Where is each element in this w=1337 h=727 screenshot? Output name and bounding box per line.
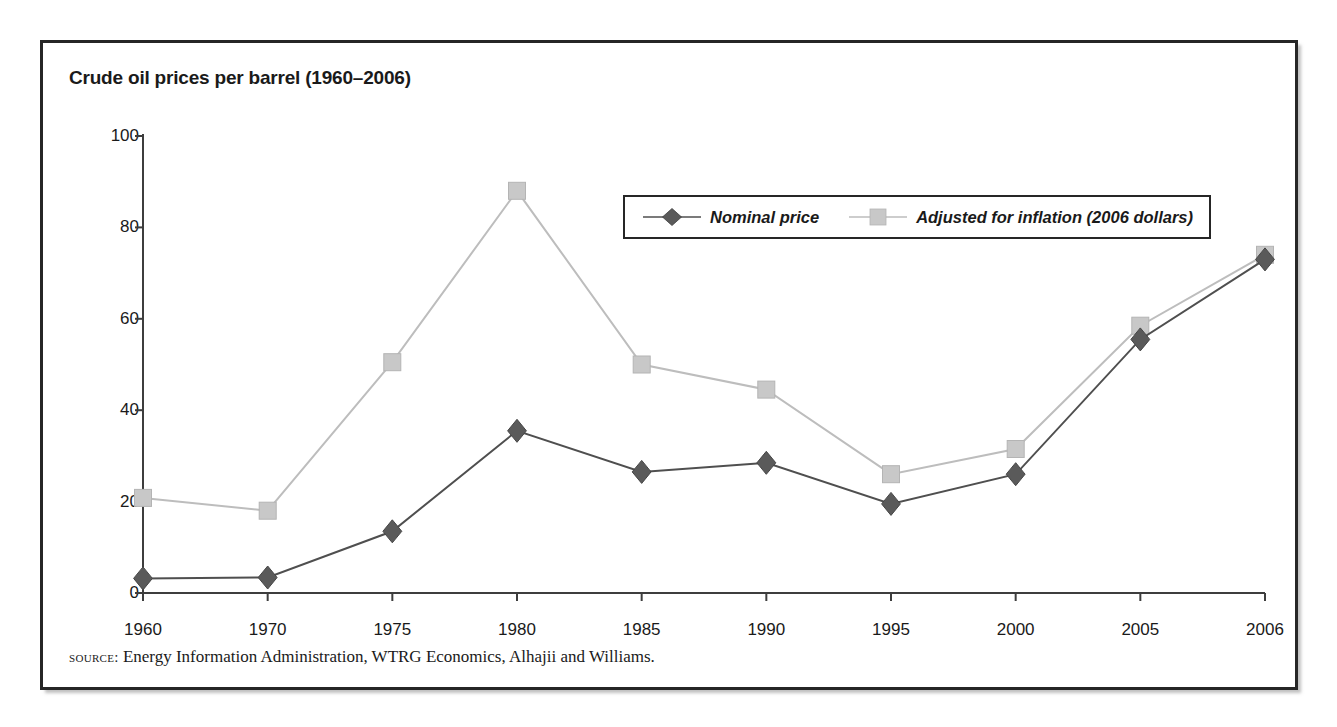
figure-canvas: Crude oil prices per barrel (1960–2006) … bbox=[0, 0, 1337, 727]
square-marker bbox=[1007, 441, 1024, 458]
exhibit-frame: Crude oil prices per barrel (1960–2006) … bbox=[40, 40, 1298, 690]
legend-label-adjusted: Adjusted for inflation (2006 dollars) bbox=[916, 208, 1193, 227]
x-tick-label: 1960 bbox=[124, 620, 162, 640]
square-marker bbox=[509, 182, 526, 199]
plot-area: 020406080100 196019701975198019851990199… bbox=[103, 118, 1283, 618]
chart-svg bbox=[103, 118, 1283, 618]
square-marker bbox=[633, 356, 650, 373]
x-tick-label: 1970 bbox=[249, 620, 287, 640]
diamond-marker bbox=[134, 567, 153, 590]
x-tick-label: 2006 bbox=[1246, 620, 1284, 640]
diamond-marker bbox=[383, 520, 402, 543]
x-tick-label: 1990 bbox=[747, 620, 785, 640]
square-marker bbox=[758, 381, 775, 398]
x-tick-label: 2005 bbox=[1121, 620, 1159, 640]
x-tick-label: 1980 bbox=[498, 620, 536, 640]
diamond-marker bbox=[882, 492, 901, 515]
chart-legend: Nominal price Adjusted for inflation (20… bbox=[623, 195, 1211, 239]
square-marker bbox=[384, 354, 401, 371]
series-line bbox=[143, 259, 1265, 578]
square-marker bbox=[259, 502, 276, 519]
source-note: source: Energy Information Administratio… bbox=[69, 647, 655, 667]
diamond-marker bbox=[757, 451, 776, 474]
diamond-marker bbox=[258, 566, 277, 589]
diamond-marker bbox=[632, 460, 651, 483]
page-title: Crude oil prices per barrel (1960–2006) bbox=[69, 67, 411, 89]
legend-item-nominal: Nominal price bbox=[641, 206, 819, 228]
x-tick-label: 1985 bbox=[623, 620, 661, 640]
diamond-marker bbox=[508, 419, 527, 442]
x-tick-label: 1975 bbox=[373, 620, 411, 640]
legend-label-nominal: Nominal price bbox=[710, 208, 819, 227]
x-tick-label: 1995 bbox=[872, 620, 910, 640]
source-label: source: bbox=[69, 649, 119, 665]
x-tick-label: 2000 bbox=[997, 620, 1035, 640]
x-axis-tick-labels: 1960197019751980198519901995200020052006 bbox=[103, 620, 1283, 644]
series-nominal bbox=[134, 248, 1275, 590]
square-marker bbox=[883, 466, 900, 483]
diamond-marker-icon bbox=[641, 206, 703, 228]
square-marker bbox=[135, 489, 152, 506]
square-marker-icon bbox=[847, 206, 909, 228]
source-text: Energy Information Administration, WTRG … bbox=[119, 647, 655, 666]
legend-item-adjusted: Adjusted for inflation (2006 dollars) bbox=[847, 206, 1193, 228]
